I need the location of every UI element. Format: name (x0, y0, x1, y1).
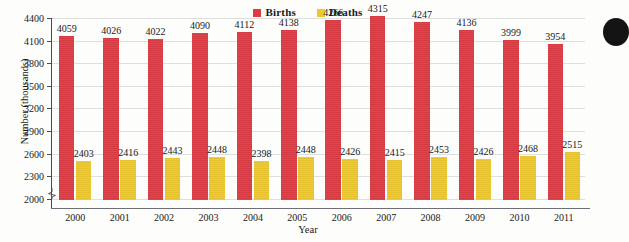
bar-value-label: 4059 (54, 23, 80, 34)
bar-value-label: 2448 (293, 144, 319, 155)
y-axis-tick-label: 2300 (4, 171, 44, 182)
x-axis-tick-label: 2000 (59, 212, 91, 223)
bar-value-label: 4315 (365, 3, 391, 14)
y-axis-tick (47, 41, 52, 42)
bar-value-label: 2453 (426, 144, 452, 155)
y-axis-tick-label: 3800 (4, 58, 44, 69)
bar-deaths-2005 (298, 157, 314, 200)
scan-artifact (603, 18, 629, 46)
x-axis-tick-label: 2008 (415, 212, 447, 223)
x-axis-tick-label: 2007 (370, 212, 402, 223)
bar-births-2007 (370, 16, 386, 200)
bar-group: 41362426 (459, 10, 492, 200)
bar-deaths-2004 (254, 161, 270, 200)
y-axis-line (51, 18, 52, 208)
y-axis-tick (47, 176, 52, 177)
bar-group: 41122398 (237, 10, 270, 200)
y-axis-tick (47, 86, 52, 87)
x-axis-tick-label: 2010 (503, 212, 535, 223)
bar-value-label: 4026 (98, 25, 124, 36)
x-axis-tick-label: 2011 (548, 212, 580, 223)
bar-value-label: 2515 (559, 139, 585, 150)
bar-deaths-2006 (342, 159, 358, 200)
x-axis-tick-label: 2003 (192, 212, 224, 223)
bar-value-label: 4136 (453, 17, 479, 28)
y-axis-tick-label: 2000 (4, 193, 44, 204)
bar-group: 40262416 (103, 10, 136, 200)
bar-births-2009 (459, 30, 475, 200)
bar-value-label: 4090 (187, 20, 213, 31)
bar-births-2010 (503, 40, 519, 200)
x-axis-tick-label: 2002 (148, 212, 180, 223)
bar-value-label: 2448 (204, 144, 230, 155)
bar-deaths-2002 (165, 158, 181, 200)
bar-group: 43152415 (370, 10, 403, 200)
bar-births-2004 (237, 32, 253, 200)
bar-value-label: 4112 (231, 19, 257, 30)
bar-births-2005 (281, 30, 297, 200)
bar-group: 42662426 (325, 10, 358, 200)
y-axis-tick (47, 131, 52, 132)
bar-value-label: 3954 (542, 31, 568, 42)
bar-group: 40592403 (59, 10, 92, 200)
y-axis-tick (47, 108, 52, 109)
bar-value-label: 2415 (382, 147, 408, 158)
bar-births-2002 (148, 39, 164, 201)
bar-value-label: 2468 (515, 143, 541, 154)
bar-group: 42472453 (414, 10, 447, 200)
y-axis-tick (47, 63, 52, 64)
x-axis-line (51, 208, 590, 209)
x-axis-tick-label: 2001 (104, 212, 136, 223)
y-axis-tick (47, 18, 52, 19)
y-axis-tick (47, 199, 52, 200)
bar-deaths-2008 (431, 157, 447, 200)
bar-deaths-2000 (76, 161, 92, 200)
x-axis-tick-label: 2004 (237, 212, 269, 223)
bar-value-label: 4266 (320, 7, 346, 18)
bar-group: 40902448 (192, 10, 225, 200)
bar-births-2001 (103, 38, 119, 200)
bar-group: 39542515 (548, 10, 581, 200)
bar-deaths-2001 (120, 160, 136, 200)
x-axis-tick-label: 2006 (326, 212, 358, 223)
y-axis-tick-label: 4100 (4, 35, 44, 46)
bar-value-label: 2416 (115, 147, 141, 158)
bar-value-label: 2398 (248, 148, 274, 159)
bar-births-2008 (414, 22, 430, 200)
bar-value-label: 2403 (71, 148, 97, 159)
plot-area: 200023002600290032003500380041004400 405… (52, 18, 585, 200)
y-axis-tick-label: 4400 (4, 13, 44, 24)
bar-deaths-2010 (520, 156, 536, 200)
bar-value-label: 4247 (409, 9, 435, 20)
x-axis-tick-label: 2005 (281, 212, 313, 223)
bar-value-label: 2443 (160, 145, 186, 156)
bar-group: 39992468 (503, 10, 536, 200)
bar-deaths-2007 (387, 160, 403, 200)
bar-deaths-2011 (565, 152, 581, 200)
y-axis-tick (47, 154, 52, 155)
bar-births-2006 (325, 20, 341, 200)
bar-value-label: 3999 (498, 27, 524, 38)
bar-value-label: 2426 (337, 146, 363, 157)
bar-deaths-2009 (476, 159, 492, 200)
y-axis-tick-label: 3500 (4, 80, 44, 91)
x-axis-label: Year (0, 224, 616, 235)
bar-group: 40222443 (148, 10, 181, 200)
bar-births-2011 (548, 44, 564, 200)
y-axis-tick-label: 3200 (4, 103, 44, 114)
bar-births-2000 (59, 36, 75, 200)
bar-value-label: 2426 (470, 146, 496, 157)
x-axis-tick-label: 2009 (459, 212, 491, 223)
bar-births-2003 (192, 33, 208, 200)
bar-deaths-2003 (209, 157, 225, 200)
bar-value-label: 4138 (276, 17, 302, 28)
bar-group: 41382448 (281, 10, 314, 200)
bar-value-label: 4022 (143, 26, 169, 37)
y-axis-tick-label: 2600 (4, 148, 44, 159)
y-axis-tick-label: 2900 (4, 126, 44, 137)
